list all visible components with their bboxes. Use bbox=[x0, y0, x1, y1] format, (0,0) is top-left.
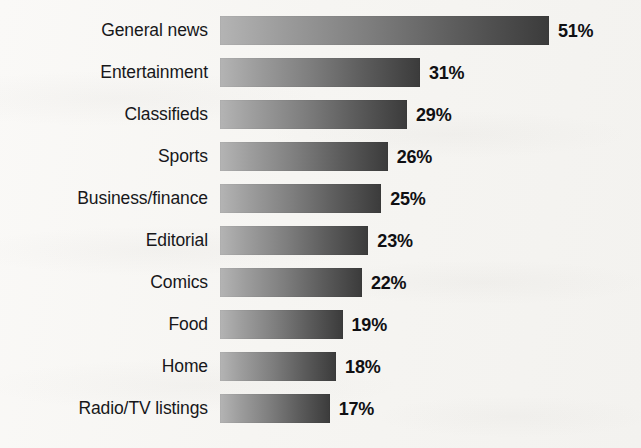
bar-fill bbox=[220, 226, 368, 255]
bar-fill bbox=[220, 16, 549, 45]
bar-row: Food19% bbox=[0, 310, 641, 339]
bar-fill bbox=[220, 100, 407, 129]
bar-row: Home18% bbox=[0, 352, 641, 381]
bar-category-label: Comics bbox=[0, 274, 208, 292]
bar-track: 19% bbox=[220, 310, 641, 339]
bar-row: Radio/TV listings17% bbox=[0, 394, 641, 423]
bar-fill bbox=[220, 58, 420, 87]
bar-value-label: 18% bbox=[345, 358, 380, 376]
bar-category-label: General news bbox=[0, 22, 208, 40]
bar-category-label: Sports bbox=[0, 148, 208, 166]
bar-track: 17% bbox=[220, 394, 641, 423]
bar-fill bbox=[220, 352, 336, 381]
bar-value-label: 19% bbox=[352, 316, 387, 334]
bar-track: 18% bbox=[220, 352, 641, 381]
bar-category-label: Editorial bbox=[0, 232, 208, 250]
bar-category-label: Entertainment bbox=[0, 64, 208, 82]
bar-track: 26% bbox=[220, 142, 641, 171]
bar-value-label: 51% bbox=[558, 22, 593, 40]
bar-value-label: 29% bbox=[416, 106, 451, 124]
bar-track: 51% bbox=[220, 16, 641, 45]
bar-row: Classifieds29% bbox=[0, 100, 641, 129]
bar-row: General news51% bbox=[0, 16, 641, 45]
bar-value-label: 17% bbox=[339, 400, 374, 418]
bar-row: Comics22% bbox=[0, 268, 641, 297]
bar-row: Sports26% bbox=[0, 142, 641, 171]
bar-category-label: Food bbox=[0, 316, 208, 334]
bar-track: 25% bbox=[220, 184, 641, 213]
bar-fill bbox=[220, 310, 343, 339]
bar-fill bbox=[220, 142, 388, 171]
bar-track: 31% bbox=[220, 58, 641, 87]
horizontal-bar-chart: General news51%Entertainment31%Classifie… bbox=[0, 0, 641, 448]
bar-track: 22% bbox=[220, 268, 641, 297]
bar-value-label: 25% bbox=[390, 190, 425, 208]
bar-category-label: Business/finance bbox=[0, 190, 208, 208]
bar-category-label: Home bbox=[0, 358, 208, 376]
bar-category-label: Classifieds bbox=[0, 106, 208, 124]
bar-value-label: 22% bbox=[371, 274, 406, 292]
bar-track: 29% bbox=[220, 100, 641, 129]
bar-fill bbox=[220, 268, 362, 297]
bar-row: Editorial23% bbox=[0, 226, 641, 255]
bar-value-label: 26% bbox=[397, 148, 432, 166]
bar-category-label: Radio/TV listings bbox=[0, 400, 208, 418]
bar-row: Entertainment31% bbox=[0, 58, 641, 87]
bar-value-label: 31% bbox=[429, 64, 464, 82]
bar-track: 23% bbox=[220, 226, 641, 255]
bar-fill bbox=[220, 394, 330, 423]
bar-row: Business/finance25% bbox=[0, 184, 641, 213]
bar-fill bbox=[220, 184, 381, 213]
bar-value-label: 23% bbox=[377, 232, 412, 250]
